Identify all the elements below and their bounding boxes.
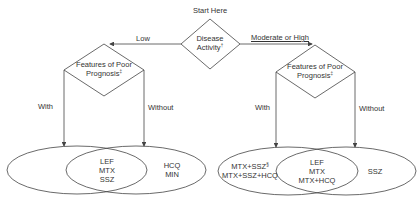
decision-main-line1: Disease: [185, 34, 235, 43]
branch-moderate-high-label: Moderate or High: [245, 33, 315, 42]
decision-left-line1: Features of Poor: [69, 60, 139, 69]
decision-left-label: Features of Poor Prognosis‡: [69, 60, 139, 78]
decision-right-line1: Features of Poor: [280, 62, 350, 71]
decision-main-label: Disease Activity†: [185, 34, 235, 52]
venn-right-right-only: SSZ: [363, 167, 387, 176]
venn-left-ellipse-a: [7, 146, 147, 194]
left-with-label: With: [38, 102, 53, 111]
decision-right-line2: Prognosis‡: [280, 71, 350, 80]
venn-left-right-only: HCQ MIN: [157, 161, 187, 179]
decision-right-label: Features of Poor Prognosis‡: [280, 62, 350, 80]
left-without-label: Without: [148, 103, 173, 112]
venn-right-overlap: LEF MTX MTX+HCQ: [297, 158, 337, 185]
start-here-label: Start Here: [180, 6, 240, 15]
right-with-label: With: [255, 103, 270, 112]
venn-right-left-only: MTX+SSZ§ MTX+SSZ+HCQ: [215, 162, 285, 180]
venn-left-overlap: LEF MTX SSZ: [92, 157, 122, 184]
decision-left-line2: Prognosis‡: [69, 69, 139, 78]
right-without-label: Without: [359, 104, 384, 113]
flowchart-lines: [0, 0, 420, 205]
decision-main-line2: Activity†: [185, 43, 235, 52]
branch-low-label: Low: [128, 34, 158, 43]
